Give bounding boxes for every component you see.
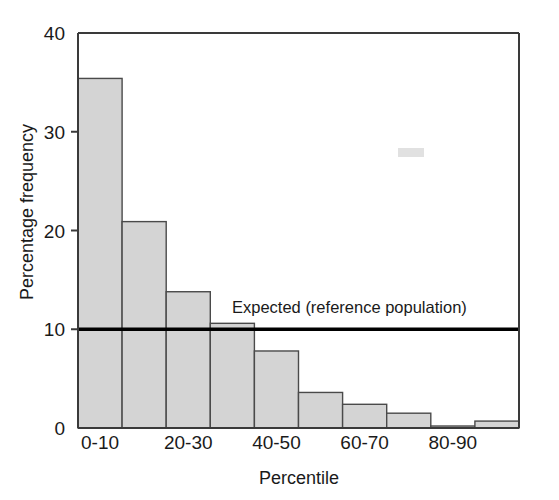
bar [210, 323, 254, 428]
bar [343, 404, 387, 428]
y-axis-title: Percentage frequency [17, 124, 37, 300]
scan-artifact [398, 148, 424, 157]
x-axis-tick-label: 40-50 [252, 432, 301, 453]
x-axis-tick-labels: 0-1020-3040-5060-7080-90 [81, 432, 477, 453]
y-axis-tick-label: 20 [44, 221, 65, 242]
bar [254, 351, 298, 428]
y-axis-tick-label: 30 [44, 122, 65, 143]
x-axis-tick-label: 20-30 [164, 432, 213, 453]
y-axis-tick-label: 10 [44, 319, 65, 340]
x-axis-tick-label: 80-90 [429, 432, 478, 453]
bar [299, 392, 343, 428]
bar [122, 222, 166, 428]
y-axis-tick-label: 0 [54, 418, 65, 439]
bar [475, 421, 519, 428]
y-axis-tick-label: 40 [44, 23, 65, 44]
y-axis-ticks: 010203040 [44, 23, 78, 439]
bar [78, 78, 122, 428]
chart-figure: Expected (reference population) 01020304… [0, 0, 559, 500]
x-axis-tick-label: 0-10 [81, 432, 119, 453]
histogram-chart: Expected (reference population) 01020304… [0, 0, 559, 500]
x-axis-title: Percentile [259, 468, 339, 488]
expected-reference-label: Expected (reference population) [232, 298, 467, 316]
bar [166, 292, 210, 428]
bar [387, 413, 431, 428]
x-axis-tick-label: 60-70 [340, 432, 389, 453]
